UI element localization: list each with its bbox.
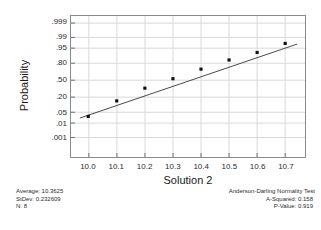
descriptive-statistics: Average: 10.3625 StDev: 0.232609 N: 8 (16, 188, 63, 211)
data-point (115, 99, 118, 102)
y-tick-label: .95 (56, 44, 67, 52)
x-tick-label: 10.2 (137, 162, 153, 171)
x-tick-label: 10.1 (108, 162, 124, 171)
stat-average: Average: 10.3625 (16, 188, 63, 196)
y-tick-label: .05 (56, 109, 67, 117)
data-series-layer (71, 16, 305, 157)
x-tick-label: 10.5 (222, 162, 238, 171)
plot-area (70, 15, 306, 158)
data-point (227, 58, 230, 61)
data-point-markers (87, 42, 287, 118)
y-tick-label: .001 (51, 134, 67, 142)
normality-test-results: Anderson-Darling Normality Test A-Square… (229, 188, 315, 211)
y-tick-label: .20 (56, 93, 67, 101)
data-point (256, 51, 259, 54)
normality-test-title: Anderson-Darling Normality Test (229, 188, 315, 196)
x-axis-title: Solution 2 (70, 174, 306, 187)
y-tick-label: .01 (56, 120, 67, 128)
x-tick-label: 10.0 (80, 162, 96, 171)
stat-a-squared: A-Squared: 0.158 (229, 196, 315, 204)
x-axis-tick-labels: 10.0 10.1 10.2 10.3 10.4 10.5 10.6 10.7 (70, 162, 306, 174)
x-tick-label: 10.3 (165, 162, 181, 171)
data-point (199, 68, 202, 71)
x-tick-label: 10.4 (193, 162, 209, 171)
data-point (87, 115, 90, 118)
probability-plot-figure: .999 .99 .95 .80 .50 .20 .05 .01 .001 (0, 0, 321, 230)
stat-stdev: StDev: 0.232609 (16, 196, 63, 204)
data-point (171, 77, 174, 80)
stat-sample-size: N: 8 (16, 203, 63, 211)
y-tick-label: .999 (51, 18, 67, 26)
y-tick-label: .99 (56, 33, 67, 41)
y-axis-title: Probability (18, 26, 31, 146)
x-tick-label: 10.7 (278, 162, 294, 171)
stat-p-value: P-Value: 0.919 (229, 203, 315, 211)
data-point (143, 87, 146, 90)
data-point (284, 42, 287, 45)
y-tick-label: .80 (56, 59, 67, 67)
y-tick-label: .50 (56, 76, 67, 84)
x-tick-label: 10.6 (250, 162, 266, 171)
y-axis-tick-labels: .999 .99 .95 .80 .50 .20 .05 .01 .001 (30, 15, 67, 158)
fit-line (80, 44, 297, 118)
